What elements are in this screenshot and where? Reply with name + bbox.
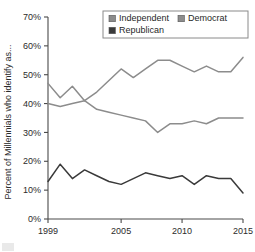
- y-tick-label: 0%: [28, 214, 41, 224]
- y-tick-label: 60%: [23, 41, 41, 51]
- x-tick-label: 2005: [111, 226, 131, 236]
- y-axis: 0%10%20%30%40%50%60%70%: [23, 12, 48, 224]
- y-tick-label: 50%: [23, 70, 41, 80]
- x-axis: 1999200520102015: [38, 219, 253, 236]
- legend-swatch-democrat: [178, 15, 184, 21]
- corner-artifact: [2, 243, 14, 251]
- legend-swatch-independent: [109, 15, 115, 21]
- x-tick-label: 2010: [172, 226, 192, 236]
- chart-container: 0%10%20%30%40%50%60%70% 1999200520102015…: [0, 0, 255, 252]
- series-line-republican: [48, 164, 243, 193]
- y-tick-label: 20%: [23, 156, 41, 166]
- legend-swatch-republican: [109, 27, 115, 33]
- x-tick-label: 2015: [233, 226, 253, 236]
- legend-label-republican: Republican: [119, 25, 164, 35]
- y-tick-label: 10%: [23, 185, 41, 195]
- y-tick-label: 40%: [23, 99, 41, 109]
- series-line-democrat: [48, 101, 243, 133]
- y-tick-label: 70%: [23, 12, 41, 22]
- line-chart: 0%10%20%30%40%50%60%70% 1999200520102015…: [0, 0, 255, 252]
- data-series-group: [48, 57, 243, 193]
- y-axis-title: Percent of Millennials who identify as..…: [3, 44, 13, 199]
- legend-label-democrat: Democrat: [188, 13, 228, 23]
- chart-legend: IndependentDemocratRepublican: [103, 11, 248, 38]
- legend-label-independent: Independent: [119, 13, 170, 23]
- series-line-independent: [48, 57, 243, 100]
- y-tick-label: 30%: [23, 128, 41, 138]
- x-tick-label: 1999: [38, 226, 58, 236]
